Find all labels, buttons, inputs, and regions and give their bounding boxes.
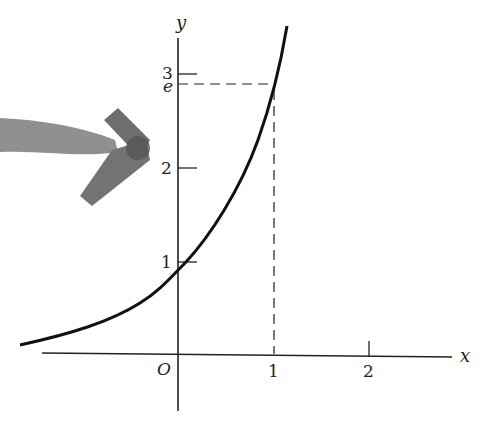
y-axis-label: y — [175, 12, 187, 33]
x-tick-label-1: 1 — [268, 361, 279, 381]
x-tick-label-2: 2 — [363, 361, 374, 381]
origin-label: O — [157, 359, 171, 379]
x-axis-label: x — [460, 345, 470, 366]
y-tick-label-2: 2 — [161, 158, 172, 178]
y-tick-label-1: 1 — [161, 252, 172, 272]
exponential-chart: y x O 1 2 1 2 3 e — [0, 0, 499, 429]
exp-curve — [20, 26, 287, 345]
pointer-arrow-icon — [0, 108, 150, 206]
x-axis — [42, 353, 452, 357]
y-tick-label-e: e — [163, 76, 173, 96]
